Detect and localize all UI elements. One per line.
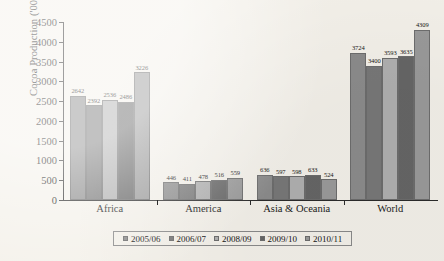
x-axis-group-separator: [250, 200, 251, 205]
bar[interactable]: [134, 72, 150, 200]
bar-value-label: 4309: [416, 21, 429, 28]
legend-item[interactable]: 2008/09: [214, 234, 252, 244]
x-axis-group-separator: [157, 200, 158, 205]
bar-group-america: 446411478516559: [157, 22, 251, 200]
bar-value-label: 2536: [103, 91, 116, 98]
legend-swatch-icon: [305, 236, 310, 241]
cocoa-production-bar-chart: Cocoa Production ('000' tonnes) 45004000…: [0, 0, 444, 261]
bar-group-bars: 37243400359336354309: [350, 22, 430, 200]
bar-value-label: 516: [215, 171, 224, 178]
bar-value-label: 3226: [135, 64, 148, 71]
legend-label: 2009/10: [268, 234, 298, 244]
bar-slot: 3400: [366, 22, 382, 200]
bar[interactable]: [70, 96, 86, 201]
bar[interactable]: [350, 53, 366, 200]
y-tick-label: 2000: [36, 115, 57, 126]
bar[interactable]: [257, 175, 273, 200]
bar-slot: 411: [179, 22, 195, 200]
bar-value-label: 3724: [352, 44, 365, 51]
legend-item[interactable]: 2005/06: [123, 234, 161, 244]
legend-label: 2010/11: [313, 234, 342, 244]
bar-value-label: 3635: [400, 48, 413, 55]
bar-group-asia-oceania: 636597598633524: [250, 22, 344, 200]
bar-group-bars: 26422392253624863226: [70, 22, 150, 200]
legend-item[interactable]: 2010/11: [305, 234, 342, 244]
bar[interactable]: [366, 66, 382, 200]
y-tick-label: 4500: [36, 17, 57, 28]
legend-item[interactable]: 2006/07: [169, 234, 207, 244]
x-axis-category-label: World: [344, 203, 438, 221]
bar-value-label: 3593: [384, 49, 397, 56]
y-tick-label: 3000: [36, 76, 57, 87]
legend-swatch-icon: [123, 236, 128, 241]
bar-slot: 2536: [102, 22, 118, 200]
bar-value-label: 3400: [368, 57, 381, 64]
bar[interactable]: [86, 105, 102, 200]
bar-slot: 516: [211, 22, 227, 200]
bar-group-bars: 636597598633524: [257, 22, 337, 200]
bar-groups: 2642239225362486322644641147851655963659…: [63, 22, 437, 200]
bar-value-label: 633: [308, 166, 317, 173]
y-tick-label: 4000: [36, 36, 57, 47]
chart-legend: 2005/062006/072008/092009/102010/11: [113, 231, 352, 246]
bar-slot: 4309: [414, 22, 430, 200]
bar[interactable]: [273, 176, 289, 200]
bar-value-label: 478: [199, 173, 208, 180]
y-tick-label: 2500: [36, 96, 57, 107]
bar-slot: 3724: [350, 22, 366, 200]
x-axis-category-label: Africa: [63, 203, 157, 221]
bar-slot: 2486: [118, 22, 134, 200]
y-tick-label: 1500: [36, 135, 57, 146]
bar-value-label: 446: [167, 174, 176, 181]
bar-group-bars: 446411478516559: [163, 22, 243, 200]
bar[interactable]: [414, 30, 430, 200]
bar-value-label: 411: [183, 175, 192, 182]
bar-slot: 478: [195, 22, 211, 200]
legend-swatch-icon: [169, 236, 174, 241]
bar-value-label: 524: [324, 171, 333, 178]
bar[interactable]: [321, 179, 337, 200]
bar-value-label: 559: [231, 169, 240, 176]
bar-group-africa: 26422392253624863226: [63, 22, 157, 200]
bar[interactable]: [195, 181, 211, 200]
bar-slot: 2392: [86, 22, 102, 200]
bar-slot: 597: [273, 22, 289, 200]
legend-label: 2008/09: [222, 234, 252, 244]
bar[interactable]: [398, 56, 414, 200]
bar-slot: 633: [305, 22, 321, 200]
bar-slot: 3635: [398, 22, 414, 200]
bar[interactable]: [211, 180, 227, 200]
bar[interactable]: [102, 100, 118, 200]
bar[interactable]: [118, 102, 134, 200]
legend-label: 2005/06: [131, 234, 161, 244]
bar-slot: 524: [321, 22, 337, 200]
plot-area: 450040003500300025002000150010005000 264…: [63, 22, 437, 200]
bar[interactable]: [227, 178, 243, 200]
bar-slot: 559: [227, 22, 243, 200]
y-tick-label: 3500: [36, 56, 57, 67]
bar-value-label: 2642: [71, 87, 84, 94]
bar[interactable]: [382, 58, 398, 200]
y-tick-mark: [59, 200, 63, 201]
legend-swatch-icon: [260, 236, 265, 241]
y-tick-label: 0: [52, 195, 57, 206]
bar-slot: 2642: [70, 22, 86, 200]
x-axis-group-separator: [344, 200, 345, 205]
bar-group-world: 37243400359336354309: [344, 22, 438, 200]
y-tick-label: 1000: [36, 155, 57, 166]
x-axis-category-label: Asia & Oceania: [250, 203, 344, 221]
x-axis-category-labels: AfricaAmericaAsia & OceaniaWorld: [63, 203, 437, 221]
legend-swatch-icon: [214, 236, 219, 241]
bar[interactable]: [289, 176, 305, 200]
bar-value-label: 598: [292, 168, 301, 175]
bar[interactable]: [305, 175, 321, 200]
bar[interactable]: [163, 182, 179, 200]
bar-value-label: 2486: [119, 93, 132, 100]
bar-slot: 636: [257, 22, 273, 200]
bar-slot: 3593: [382, 22, 398, 200]
bar-slot: 598: [289, 22, 305, 200]
bar-value-label: 636: [260, 166, 269, 173]
bar[interactable]: [179, 184, 195, 200]
legend-item[interactable]: 2009/10: [260, 234, 298, 244]
legend-label: 2006/07: [177, 234, 207, 244]
